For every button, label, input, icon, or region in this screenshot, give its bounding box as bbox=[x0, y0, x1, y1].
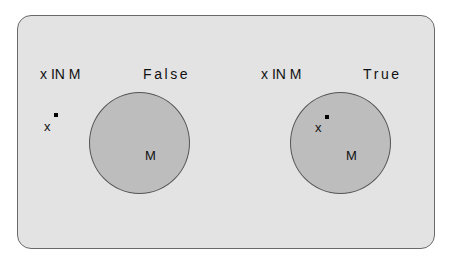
set-m-circle-right bbox=[290, 92, 391, 194]
element-label-right: x bbox=[315, 121, 322, 134]
set-label-right: M bbox=[346, 149, 357, 162]
expression-label-left: x IN M bbox=[40, 67, 80, 81]
element-label-left: x bbox=[44, 120, 51, 133]
element-point-left bbox=[54, 113, 58, 117]
expression-label-right: x IN M bbox=[261, 67, 301, 81]
set-label-left: M bbox=[145, 149, 156, 162]
set-m-circle-left bbox=[89, 92, 190, 194]
result-label-false: False bbox=[143, 67, 190, 81]
result-label-true: True bbox=[363, 67, 402, 81]
element-point-right bbox=[325, 115, 329, 119]
